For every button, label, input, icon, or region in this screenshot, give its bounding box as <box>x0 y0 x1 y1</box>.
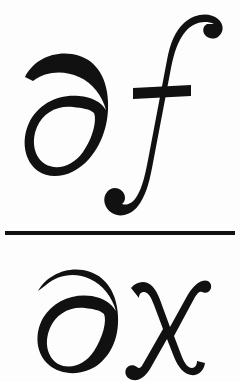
partial-derivative-formula: partial f over partial x <box>0 0 240 382</box>
fraction-bar <box>5 231 235 235</box>
formula-glyph-layer <box>0 0 240 382</box>
fraction-bar-rule <box>5 231 235 235</box>
